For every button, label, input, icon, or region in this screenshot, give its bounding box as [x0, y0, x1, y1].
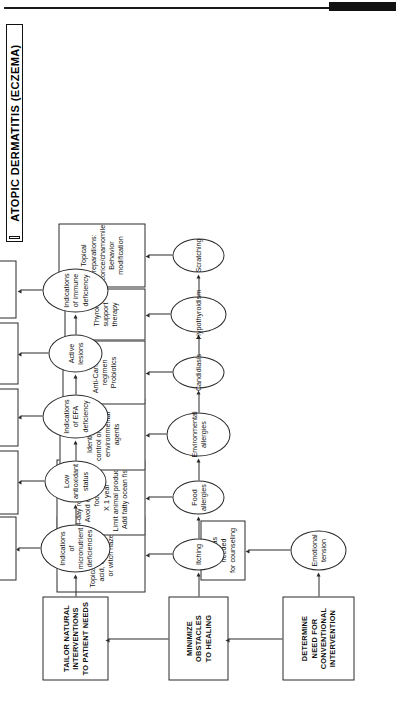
flowchart-canvas-upper: Vitamin A Vitamin E Zinc Quercetin Flavo…	[0, 0, 405, 702]
action-burdock-dandelion[interactable]: Burdock or dandelion	[0, 260, 16, 318]
action-epa-dha[interactable]: EPA/DHA Flaxseed oil	[0, 388, 18, 446]
action-vitamins-zinc[interactable]: Vitamin A Vitamin E Zinc	[0, 516, 16, 580]
action-coleus-ginkgo[interactable]: Coleus, Ginkgo Licorice (internal) Chine…	[0, 322, 18, 384]
action-quercetin[interactable]: Quercetin Flavonoid extracts	[0, 450, 18, 514]
